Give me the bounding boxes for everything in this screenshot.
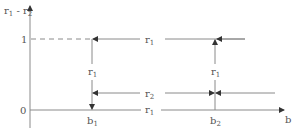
tick-one: 1 [21,34,27,45]
x-axis-label: b [285,114,291,125]
right-rise-label: r1 [211,66,220,79]
middle-line-label: r2 [145,88,154,101]
left-drop-label: r1 [88,66,97,79]
hysteresis-diagram: r1 - r2 b 1 0 r1 r1 r1 r2 r1 b1 b2 [0,0,295,135]
top-line-label: r1 [145,34,154,47]
tick-zero: 0 [20,105,26,116]
point-b2-label: b2 [210,115,221,128]
point-b1-label: b1 [87,115,98,128]
y-axis-label: r1 - r2 [4,5,32,18]
